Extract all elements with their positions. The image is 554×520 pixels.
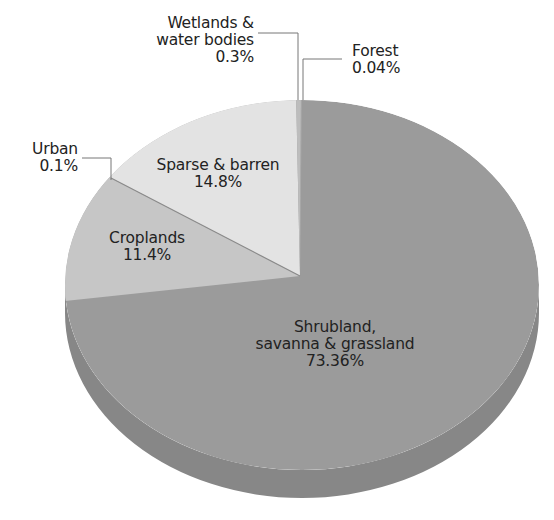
label-wetlands-name-1: Wetlands & [150,15,254,32]
pie-chart [0,0,554,520]
label-sparse-barren: Sparse & barren 14.8% [148,157,288,191]
label-shrubland-name-2: savanna & grassland [245,336,425,353]
label-forest-value: 0.04% [352,60,432,77]
label-shrubland-value: 73.36% [245,353,425,370]
label-croplands: Croplands 11.4% [92,230,202,264]
label-wetlands-value: 0.3% [150,49,254,66]
label-urban-name: Urban [20,141,78,158]
label-wetlands-name-2: water bodies [150,32,254,49]
label-shrubland-name-1: Shrubland, [245,319,425,336]
label-sparse-value: 14.8% [148,174,288,191]
leader-line-urban [82,158,111,180]
label-shrubland: Shrubland, savanna & grassland 73.36% [245,319,425,370]
leader-line-wetlands [258,33,298,100]
label-sparse-name: Sparse & barren [148,157,288,174]
leader-line-forest [303,59,342,100]
label-forest-name: Forest [352,43,432,60]
label-wetlands: Wetlands & water bodies 0.3% [150,15,254,66]
label-croplands-value: 11.4% [92,247,202,264]
label-urban-value: 0.1% [20,158,78,175]
label-croplands-name: Croplands [92,230,202,247]
label-urban: Urban 0.1% [20,141,78,175]
label-forest: Forest 0.04% [352,43,432,77]
